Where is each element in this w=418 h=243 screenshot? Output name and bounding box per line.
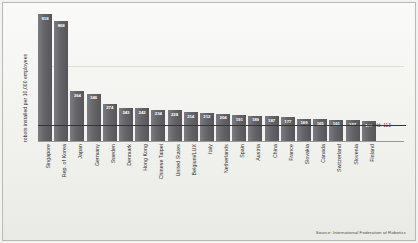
bar-value-label: 234 [151,111,165,116]
x-axis-label-text: Germany [94,144,100,166]
bar-value-label: 189 [248,117,262,122]
robot-density-bar-chart: robots installed per 10,000 employees 91… [0,0,418,243]
x-axis-label-text: Rep. of Korea [61,144,67,177]
x-axis-label: Japan [70,144,84,204]
bar-value-label: 187 [265,118,279,123]
bar-value-label: 868 [54,23,68,28]
x-axis-label-text: Italy [207,144,213,154]
bar[interactable]: 189 [248,116,262,142]
source-note: Source: International Federation of Robo… [316,230,406,235]
y-axis-title-text: robots installed per 10,000 employees [22,54,28,142]
x-axis-label: Sweden [103,144,117,204]
x-axis-label: Belgium/LUX [184,144,198,204]
bar-slot: 364 [70,10,84,142]
bar-slot: 228 [168,10,182,142]
bar-value-label: 191 [232,117,246,122]
x-axis-label: Italy [200,144,214,204]
bar-value-label: 274 [103,105,117,110]
bar[interactable]: 212 [200,113,214,142]
x-axis-label-text: Chinese Taipei [158,144,164,179]
bar-value-label: 204 [216,115,230,120]
bar[interactable]: 161 [329,120,343,142]
bar-slot: 243 [119,10,133,142]
bar-slot: 868 [54,10,68,142]
x-axis-label-text: Finland [369,144,375,162]
bar-slot: 918 [38,10,52,142]
x-axis-label-text: Belgium/LUX [191,144,197,175]
bar-slot: 157 [346,10,360,142]
bar-value-label: 228 [168,112,182,117]
bar[interactable]: 346 [87,94,101,142]
bar-slot: 177 [281,10,295,142]
x-axis-label: United States [168,144,182,204]
x-axis-label: China [265,144,279,204]
bar-value-label: 212 [200,114,214,119]
x-axis-label-text: United States [175,144,181,176]
bar-slot: 204 [216,10,230,142]
x-axis-label: Hong Kong [135,144,149,204]
world-reference-label: World: 113 [368,123,391,128]
x-axis-label: Rep. of Korea [54,144,68,204]
x-axis-label-text: Canada [320,144,326,163]
plot-area: 9188683643462742432422342282142122041911… [38,10,404,142]
x-axis-label: Denmark [119,144,133,204]
bar-value-label: 242 [135,110,149,115]
x-axis-label-text: France [288,144,294,161]
bar[interactable]: 918 [38,14,52,142]
bar[interactable]: 191 [232,115,246,142]
x-axis-label: Chinese Taipei [151,144,165,204]
x-axis-label: Netherlands [216,144,230,204]
x-axis-label: Switzerland [329,144,343,204]
x-axis-label-text: Spain [239,144,245,158]
bar[interactable]: 177 [281,117,295,142]
x-axis-label-text: Switzerland [336,144,342,172]
x-axis-label-text: Sweden [110,144,116,163]
bar[interactable]: 204 [216,114,230,142]
x-axis-label: France [281,144,295,204]
bar[interactable]: 157 [346,120,360,142]
bar[interactable]: 165 [313,119,327,142]
x-axis-label: Singapore [38,144,52,204]
x-axis-label: Slovakia [297,144,311,204]
bar-value-label: 177 [281,119,295,124]
bar-slot: 214 [184,10,198,142]
bar-slot: 274 [103,10,117,142]
bar-value-label: 364 [70,93,84,98]
bar-series: 9188683643462742432422342282142122041911… [38,10,404,142]
bar-slot: 242 [135,10,149,142]
bar-slot: 234 [151,10,165,142]
x-axis-label: Finland [362,144,376,204]
x-axis-label-text: Singapore [45,144,51,169]
x-axis-label-text: Denmark [126,144,132,166]
world-reference-line [38,125,406,126]
bar-value-label: 169 [297,120,311,125]
bar-slot: 169 [297,10,311,142]
x-axis-label-text: Slovakia [304,144,310,164]
x-axis-label-text: Slovenia [353,144,359,165]
x-axis-label-text: Hong Kong [142,144,148,171]
x-axis-label-text: Austria [255,144,261,161]
bar-slot: 187 [265,10,279,142]
x-axis-label: Austria [248,144,262,204]
x-axis-label: Canada [313,144,327,204]
x-axis-label-text: China [272,144,278,158]
x-axis-labels: SingaporeRep. of KoreaJapanGermanySweden… [38,144,404,204]
bar[interactable]: 214 [184,112,198,142]
x-axis-label-text: Japan [77,144,83,159]
bar[interactable]: 868 [54,21,68,142]
x-axis-label: Slovenia [346,144,360,204]
bar-slot: 149 [362,10,376,142]
bar-slot: 165 [313,10,327,142]
bar[interactable]: 364 [70,91,84,142]
bar-slot: 346 [87,10,101,142]
x-axis-label: Germany [87,144,101,204]
bar-slot: 191 [232,10,246,142]
bar-slot: 212 [200,10,214,142]
bar[interactable]: 169 [297,119,311,142]
x-axis-label-text: Netherlands [223,144,229,173]
bar-value-label: 243 [119,110,133,115]
bar[interactable]: 274 [103,104,117,142]
bar[interactable]: 187 [265,116,279,142]
bar-slot: 161 [329,10,343,142]
x-axis-line [38,141,404,142]
